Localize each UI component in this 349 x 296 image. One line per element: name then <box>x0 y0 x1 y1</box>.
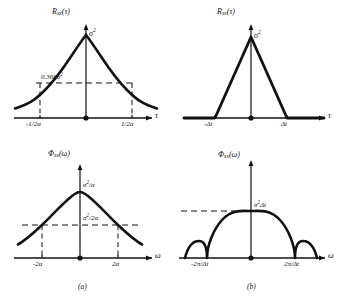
level-exponent: 2 <box>60 72 63 77</box>
peak-exponent: 2 <box>258 29 261 35</box>
xtick-label-negative: -Δt <box>204 121 212 128</box>
peak-value-label: σ2/α <box>83 180 95 189</box>
panel-caption-b: (b) <box>247 283 256 291</box>
y-axis-label-argument: (τ) <box>62 7 70 16</box>
peak-value-label: σ2 <box>89 28 96 38</box>
triangular-curve <box>184 37 324 118</box>
y-axis-arrow <box>249 160 254 166</box>
x-axis-label: τ <box>328 112 331 120</box>
origin-dot <box>77 255 82 260</box>
xtick-label-positive: 1/2α <box>121 121 134 128</box>
panel-exponential-autocorrelation: Rxx(τ) σ2 0.368σ2 -1/2α 1/2α τ <box>0 0 175 148</box>
origin-dot <box>248 255 253 260</box>
y-axis-arrow <box>84 24 89 30</box>
xtick-label-negative: -1/2α <box>26 121 41 128</box>
panel-b-top-svg <box>175 0 349 148</box>
peak-denominator: /α <box>89 181 95 189</box>
panel-caption-a: (a) <box>78 283 87 291</box>
x-axis-arrow <box>146 255 152 260</box>
panel-sinc-squared-psd: Φxx(ω) σ2Δt -2π/Δt 2π/Δt ω (b) <box>175 148 349 296</box>
xtick-label-positive: Δt <box>281 121 287 128</box>
peak-value-label: σ2 <box>254 30 261 40</box>
y-axis-label: Rxx(τ) <box>217 8 235 17</box>
half-denominator: /2α <box>89 214 98 222</box>
xtick-label-negative: -2π/Δt <box>191 261 208 268</box>
xtick-label-positive: 2α <box>112 261 119 268</box>
y-axis-label-argument: (τ) <box>227 7 235 16</box>
x-axis-label: ω <box>155 252 161 260</box>
y-axis-label-argument: (ω) <box>59 149 70 158</box>
peak-delta-t: Δt <box>260 201 266 209</box>
x-axis-label: ω <box>328 252 334 260</box>
level-value-label: 0.368σ2 <box>41 72 63 81</box>
panel-b-bottom-svg <box>175 148 349 296</box>
y-axis-label: Φxx(ω) <box>218 151 240 160</box>
y-axis-arrow <box>249 24 254 30</box>
peak-exponent: 2 <box>93 27 96 33</box>
xtick-label-positive: 2π/Δt <box>284 261 299 268</box>
y-axis-label: Rxx(τ) <box>52 8 70 17</box>
x-axis-arrow <box>319 255 325 260</box>
figure-container: Rxx(τ) σ2 0.368σ2 -1/2α 1/2α τ Rxx(τ) σ2… <box>0 0 349 296</box>
y-axis-arrow <box>78 164 83 170</box>
x-axis-label: τ <box>155 112 158 120</box>
half-value-label: σ2/2α <box>83 213 98 222</box>
level-sigma: 0.368σ <box>41 73 60 81</box>
origin-dot <box>248 115 253 120</box>
xtick-label-negative: -2α <box>33 261 43 268</box>
y-axis-label-argument: (ω) <box>229 150 240 159</box>
panel-triangular-autocorrelation: Rxx(τ) σ2 -Δt Δt τ <box>175 0 349 148</box>
peak-value-label: σ2Δt <box>254 200 266 209</box>
y-axis-label: Φxx(ω) <box>48 150 70 159</box>
x-axis-arrow <box>146 115 152 120</box>
origin-dot <box>83 115 88 120</box>
panel-lorentzian-psd: Φxx(ω) σ2/α σ2/2α -2α 2α ω (a) <box>0 148 175 296</box>
